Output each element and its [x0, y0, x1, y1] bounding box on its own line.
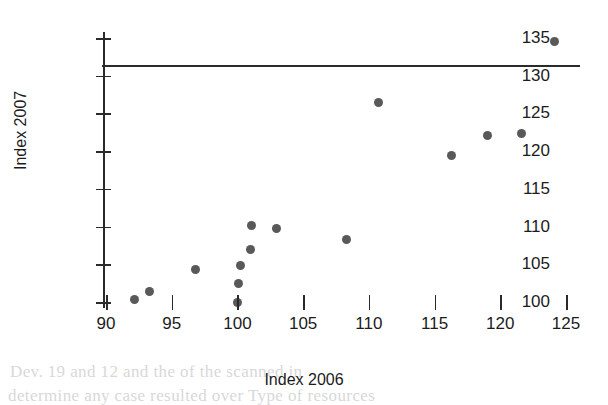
y-axis-title: Index 2007 [12, 91, 30, 170]
y-axis-tick [96, 76, 111, 78]
y-axis-tick-label: 135 [522, 28, 550, 48]
x-axis-tick-label: 105 [289, 314, 317, 334]
y-axis-line [103, 32, 105, 308]
data-point [246, 245, 255, 254]
y-axis-tick-label: 105 [522, 254, 550, 274]
x-axis-tick [237, 295, 239, 310]
x-axis-tick [500, 295, 502, 310]
data-point [247, 221, 256, 230]
y-axis-tick-label: 115 [523, 179, 550, 199]
data-point [342, 235, 351, 244]
plot-area: 100105110115120125130135 [106, 38, 566, 302]
x-axis-tick [566, 295, 568, 310]
x-axis-tick-label: 110 [355, 314, 382, 334]
y-axis-tick-label: 110 [523, 217, 550, 237]
x-axis-tick-label: 120 [486, 314, 514, 334]
y-axis-tick-label: 125 [522, 103, 550, 123]
y-axis-tick-label: 120 [522, 141, 550, 161]
data-point [483, 131, 492, 140]
y-axis-tick [96, 151, 111, 153]
data-point [145, 287, 154, 296]
x-axis-tick [106, 295, 108, 310]
x-axis-tick-label: 125 [552, 314, 580, 334]
y-axis-tick [96, 38, 111, 40]
data-point [234, 279, 243, 288]
data-point [517, 129, 526, 138]
x-axis: 9095100105110115120125 [106, 302, 566, 303]
x-axis-tick-label: 115 [421, 314, 448, 334]
y-axis-tick [96, 113, 111, 115]
data-point [236, 261, 245, 270]
x-axis-title: Index 2006 [0, 371, 608, 389]
data-point [550, 37, 559, 46]
y-axis-tick [96, 189, 111, 191]
data-point [272, 224, 281, 233]
y-axis-tick [96, 264, 111, 266]
data-point [191, 265, 200, 274]
x-axis-tick-label: 100 [223, 314, 251, 334]
scatter-chart-figure: Dev. 19 and 12 and the of the scanned in… [0, 0, 608, 405]
x-axis-tick [435, 295, 437, 310]
x-axis-tick [172, 295, 174, 310]
data-point [447, 151, 456, 160]
data-point [374, 98, 383, 107]
x-axis-line [102, 65, 580, 67]
y-axis-tick-label: 130 [522, 66, 550, 86]
x-axis-tick-label: 95 [162, 314, 181, 334]
x-axis-tick-label: 90 [97, 314, 116, 334]
x-axis-tick [369, 295, 371, 310]
x-axis-tick [303, 295, 305, 310]
y-axis-tick [96, 227, 111, 229]
